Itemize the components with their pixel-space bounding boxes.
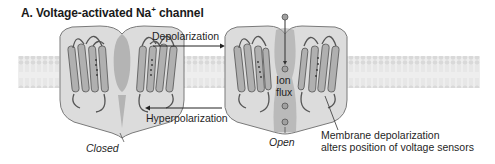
depolarization-label: Depolarization (152, 30, 219, 42)
closed-label: Closed (86, 142, 119, 154)
voltage-sensor-label-line2: alters position of voltage sensors (321, 141, 474, 153)
hyperpolarization-label: Hyperpolarization (146, 112, 228, 124)
ion-label: Ion (276, 74, 291, 86)
open-label: Open (269, 136, 295, 148)
voltage-sensor-label-line1: Membrane depolarization (321, 129, 439, 141)
flux-label: flux (276, 86, 292, 98)
closed-channel (60, 26, 185, 142)
